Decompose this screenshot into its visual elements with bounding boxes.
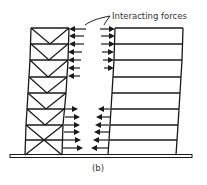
interacting-buildings-diagram: Interacting forces (b) <box>0 0 207 185</box>
left-braced-building <box>25 28 69 155</box>
upper-interacting-force-arrows <box>71 29 112 76</box>
annotation-leaders <box>85 16 110 25</box>
figure-caption: (b) <box>92 163 104 173</box>
ground-slab <box>10 155 192 158</box>
annotation-label: Interacting forces <box>112 11 187 21</box>
lower-interacting-force-arrows <box>63 109 110 148</box>
right-frame-building <box>108 28 183 155</box>
